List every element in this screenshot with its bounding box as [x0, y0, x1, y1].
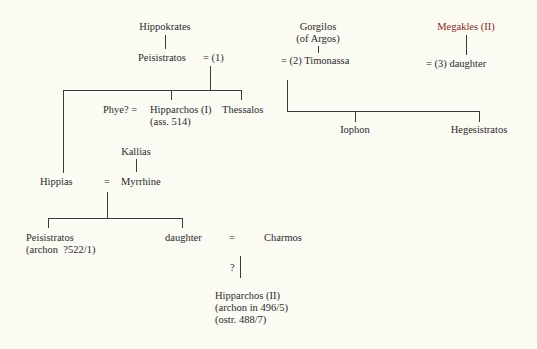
line-timonassa-down [287, 80, 288, 111]
line-to-hegesistratos [479, 111, 480, 122]
node-gorgilos-note: (of Argos) [296, 33, 339, 45]
line-megakles-daughter [466, 35, 467, 55]
node-hipparchos-2-note2: (ostr. 488/7) [215, 314, 266, 326]
node-hipparchos-1-note: (ass. 514) [150, 116, 191, 128]
node-peisistratos-2: Peisistratos [26, 232, 74, 244]
node-phye: Phye? = [103, 104, 137, 116]
line-to-daughter [182, 218, 183, 228]
node-hegesistratos: Hegesistratos [451, 124, 508, 136]
node-hipparchos-2-note1: (archon in 496/5) [215, 302, 288, 314]
node-myrrhine: Myrrhine [121, 176, 161, 188]
daughter-marriage-sign: = [229, 232, 235, 244]
hippias-marriage-sign: = [104, 176, 110, 188]
line-marriage1-down [210, 66, 211, 90]
uncertain-marker: ? [230, 262, 235, 274]
marriage-1: = (1) [203, 52, 224, 64]
node-iophon: Iophon [340, 124, 370, 136]
line-children-1 [63, 90, 242, 91]
node-peisistratos-2-note: (archon ?522/1) [26, 244, 95, 256]
node-hipparchos-2: Hipparchos (II) [215, 290, 280, 302]
node-hippokrates: Hippokrates [139, 21, 190, 33]
line-to-hipparchos2 [240, 256, 241, 278]
node-hipparchos-1: Hipparchos (I) [150, 104, 212, 116]
line-kallias-myrrhine [136, 159, 137, 172]
line-to-hippias [63, 90, 64, 173]
line-to-hipparchos1 [171, 90, 172, 100]
line-children-2 [287, 111, 479, 112]
node-gorgilos: Gorgilos [300, 21, 337, 33]
node-daughter-3: = (3) daughter [426, 58, 486, 70]
line-to-thessalos [241, 90, 242, 100]
node-daughter: daughter [165, 232, 202, 244]
line-to-peisistratos2 [48, 218, 49, 228]
node-kallias: Kallias [121, 146, 151, 158]
node-megakles: Megakles (II) [437, 21, 494, 33]
line-to-iophon [355, 111, 356, 122]
node-thessalos: Thessalos [222, 104, 263, 116]
line-hippokrates-peisistratos [165, 35, 166, 49]
node-hippias: Hippias [40, 176, 73, 188]
node-charmos: Charmos [264, 232, 302, 244]
line-gorgilos-timonassa [318, 46, 319, 53]
node-timonassa: = (2) Timonassa [281, 55, 349, 67]
line-hippias-children [107, 192, 108, 218]
line-children-hippias [48, 218, 183, 219]
node-peisistratos: Peisistratos [138, 52, 186, 64]
